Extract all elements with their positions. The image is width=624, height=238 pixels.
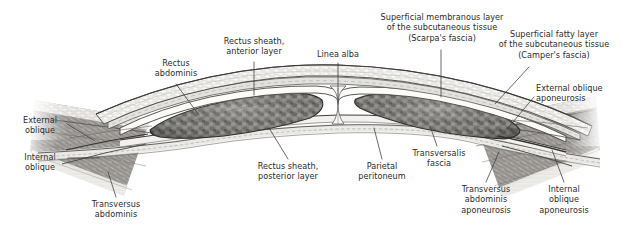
label-external-oblique-aponeurosis: External oblique aponeurosis (536, 83, 620, 104)
label-superficial-fatty-layer: Superficial fatty layer of the subcutane… (491, 29, 617, 60)
label-internal-oblique-aponeurosis: Internal oblique aponeurosis (527, 184, 601, 215)
label-external-oblique: External oblique (14, 115, 66, 136)
label-transversus-abdominis: Transversus abdominis (82, 199, 150, 220)
label-transversus-abdominis-aponeurosis: Transversus abdominis aponeurosis (448, 184, 524, 215)
label-rectus-sheath-posterior-layer: Rectus sheath, posterior layer (246, 161, 330, 182)
label-rectus-sheath-anterior-layer: Rectus sheath, anterior layer (212, 36, 296, 57)
abdominal-wall-cross-section-figure: Rectus abdominisRectus sheath, anterior … (0, 0, 624, 238)
label-rectus-abdominis: Rectus abdominis (143, 58, 209, 79)
label-transversalis-fascia: Transversalis fascia (402, 148, 476, 169)
label-linea-alba: Linea alba (310, 49, 366, 59)
label-internal-oblique: Internal oblique (14, 152, 66, 173)
